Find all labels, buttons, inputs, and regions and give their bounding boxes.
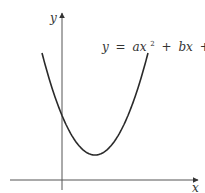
eq-plus-1: + [162, 40, 172, 54]
parabola-curve [42, 53, 148, 155]
eq-equals: = [116, 40, 126, 54]
y-axis-label: y [49, 11, 57, 25]
eq-b-term: bx [178, 40, 193, 54]
equation-label: y = ax 2 + bx + c [101, 35, 205, 54]
eq-lhs: y [101, 40, 109, 54]
eq-plus-2: + [200, 40, 205, 54]
parabola-diagram: x y y = ax 2 + bx + c [0, 0, 205, 193]
x-axis-label: x [192, 181, 199, 193]
eq-a-term: ax [133, 40, 147, 54]
eq-exponent: 2 [150, 40, 154, 48]
